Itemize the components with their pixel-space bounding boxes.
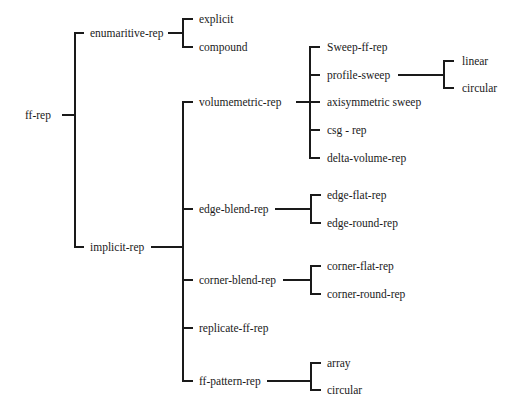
ff-rep-tree-diagram: ff-rep enumaritive-rep explicit compound… bbox=[0, 0, 524, 413]
connector-implicit bbox=[151, 246, 183, 248]
bracket-ff-pattern bbox=[310, 363, 312, 391]
connector-to-ff-pattern bbox=[182, 380, 193, 382]
node-axisymmetric-sweep: axisymmetric sweep bbox=[327, 95, 421, 109]
bracket-enumaritive bbox=[182, 19, 184, 48]
bracket-corner-blend bbox=[310, 266, 312, 295]
node-delta-volume-rep: delta-volume-rep bbox=[327, 151, 406, 165]
bracket-volumemetric bbox=[309, 47, 311, 159]
connector-to-implicit bbox=[74, 246, 84, 248]
bracket-edge-blend bbox=[310, 195, 312, 224]
node-corner-flat-rep: corner-flat-rep bbox=[327, 259, 394, 273]
connector-ff-pattern bbox=[267, 380, 311, 382]
connector-to-csg bbox=[309, 129, 320, 131]
connector-to-delta-volume bbox=[309, 157, 320, 159]
node-pattern-circular: circular bbox=[327, 383, 362, 397]
node-corner-round-rep: corner-round-rep bbox=[327, 287, 405, 301]
bracket-ff-rep bbox=[74, 33, 76, 248]
connector-to-profile-sweep bbox=[309, 74, 320, 76]
node-linear: linear bbox=[462, 54, 488, 68]
node-edge-flat-rep: edge-flat-rep bbox=[327, 188, 386, 202]
connector-volumemetric bbox=[296, 101, 310, 103]
node-volumemetric-rep: volumemetric-rep bbox=[199, 95, 281, 109]
connector-enumaritive bbox=[168, 32, 183, 34]
node-enumaritive-rep: enumaritive-rep bbox=[90, 26, 163, 40]
connector-to-linear bbox=[443, 60, 454, 62]
node-csg-rep: csg - rep bbox=[327, 123, 367, 137]
connector-to-compound bbox=[182, 46, 193, 48]
node-edge-blend-rep: edge-blend-rep bbox=[199, 202, 269, 216]
connector-to-circular bbox=[443, 87, 454, 89]
connector-to-axisymmetric bbox=[309, 101, 320, 103]
node-profile-circular: circular bbox=[462, 81, 497, 95]
connector-to-explicit bbox=[182, 18, 193, 20]
connector-to-edge-round bbox=[310, 222, 321, 224]
node-sweep-ff-rep: Sweep-ff-rep bbox=[327, 40, 387, 54]
connector-to-array bbox=[310, 362, 321, 364]
connector-to-volumemetric bbox=[182, 101, 193, 103]
bracket-profile-sweep bbox=[443, 61, 445, 89]
bracket-implicit bbox=[182, 102, 184, 382]
connector-to-edge-flat bbox=[310, 194, 321, 196]
node-compound: compound bbox=[199, 40, 248, 54]
connector-corner-blend bbox=[283, 279, 311, 281]
node-array: array bbox=[327, 356, 351, 370]
node-ff-rep: ff-rep bbox=[25, 108, 51, 122]
connector-to-corner-blend bbox=[182, 279, 193, 281]
node-edge-round-rep: edge-round-rep bbox=[327, 216, 398, 230]
connector-to-pattern-circular bbox=[310, 389, 321, 391]
connector-to-edge-blend bbox=[182, 208, 193, 210]
connector-to-sweep-ff bbox=[309, 46, 320, 48]
connector-profile-sweep bbox=[398, 74, 444, 76]
connector-edge-blend bbox=[275, 208, 311, 210]
node-implicit-rep: implicit-rep bbox=[90, 240, 144, 254]
connector-to-replicate bbox=[182, 327, 193, 329]
connector-to-corner-flat bbox=[310, 265, 321, 267]
node-explicit: explicit bbox=[199, 12, 234, 26]
node-corner-blend-rep: corner-blend-rep bbox=[199, 273, 276, 287]
connector-to-enumaritive bbox=[74, 32, 84, 34]
node-replicate-ff-rep: replicate-ff-rep bbox=[199, 321, 268, 335]
node-profile-sweep: profile-sweep bbox=[327, 68, 390, 82]
connector-to-corner-round bbox=[310, 293, 321, 295]
node-ff-pattern-rep: ff-pattern-rep bbox=[199, 374, 261, 388]
